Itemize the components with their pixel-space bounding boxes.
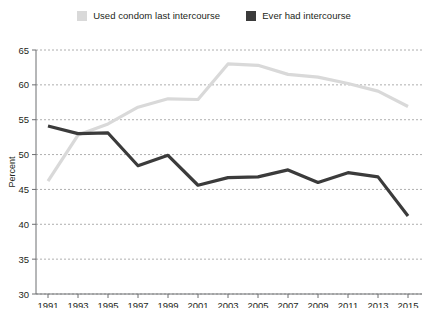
legend-item-ever-had-intercourse: Ever had intercourse <box>246 10 351 21</box>
x-tick-label: 2011 <box>338 300 358 308</box>
x-tick-label: 1999 <box>157 300 178 308</box>
series-line-used-condom <box>48 64 408 181</box>
y-tick-label: 50 <box>18 149 29 160</box>
chart-legend: Used condom last intercourse Ever had in… <box>0 10 428 21</box>
x-tick-label: 2001 <box>187 300 208 308</box>
legend-swatch-ever-had-intercourse-icon <box>246 11 256 21</box>
legend-label-ever-had-intercourse: Ever had intercourse <box>262 10 351 21</box>
x-tick-labels-group: 1991199319951997199920012003200520072009… <box>37 300 418 308</box>
x-tick-label: 2005 <box>247 300 268 308</box>
series-line-ever-had-intercourse <box>48 126 408 216</box>
y-tick-label: 30 <box>18 289 29 300</box>
series-lines-group <box>48 64 408 216</box>
y-tick-label: 40 <box>18 219 29 230</box>
y-axis-group <box>32 50 36 294</box>
x-tick-label: 1993 <box>67 300 88 308</box>
y-tick-label: 55 <box>18 114 29 125</box>
legend-swatch-used-condom-icon <box>77 11 87 21</box>
x-axis-group <box>36 294 422 298</box>
y-tick-label: 45 <box>18 184 29 195</box>
legend-item-used-condom: Used condom last intercourse <box>77 10 220 21</box>
y-axis-title: Percent <box>7 156 17 188</box>
y-tick-label: 60 <box>18 79 29 90</box>
y-tick-labels-group: 6560555045403530 <box>18 45 29 300</box>
line-chart-svg: 6560555045403530 19911993199519971999200… <box>0 36 428 308</box>
x-tick-label: 2013 <box>367 300 388 308</box>
x-tick-label: 1991 <box>37 300 58 308</box>
x-tick-label: 2015 <box>397 300 418 308</box>
x-tick-label: 2009 <box>307 300 328 308</box>
chart-container: Used condom last intercourse Ever had in… <box>0 0 428 334</box>
y-tick-label: 35 <box>18 254 29 265</box>
x-tick-label: 1997 <box>127 300 148 308</box>
legend-label-used-condom: Used condom last intercourse <box>93 10 220 21</box>
y-tick-label: 65 <box>18 45 29 56</box>
plot-area: 6560555045403530 19911993199519971999200… <box>0 36 428 308</box>
x-tick-label: 2003 <box>217 300 238 308</box>
x-tick-label: 2007 <box>277 300 298 308</box>
x-tick-label: 1995 <box>97 300 118 308</box>
